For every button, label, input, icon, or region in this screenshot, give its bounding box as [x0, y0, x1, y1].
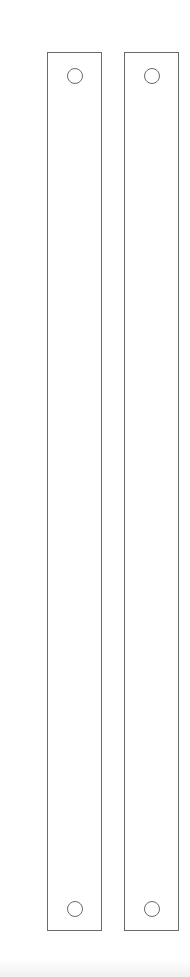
left-strip-top-hole-icon [67, 68, 83, 84]
bottom-shadow-band [0, 959, 190, 977]
right-strip-top-hole-icon [144, 68, 160, 84]
left-strip-bottom-hole-icon [67, 901, 83, 917]
right-strip-bottom-hole-icon [144, 901, 160, 917]
right-strip [124, 52, 179, 931]
left-strip [47, 52, 102, 931]
